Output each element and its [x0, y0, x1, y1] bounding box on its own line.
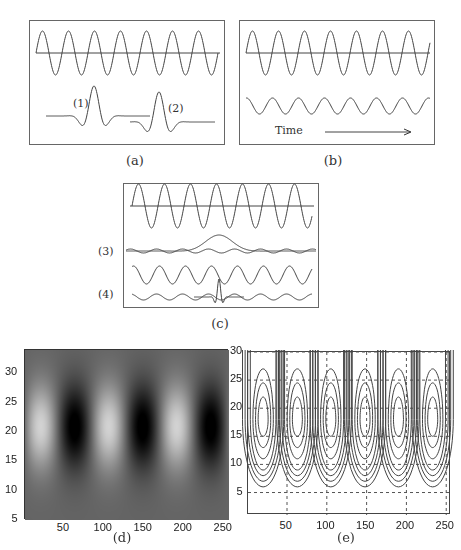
panel-b: Time — [239, 20, 435, 145]
x-tick-label: 200 — [174, 521, 192, 533]
caption-e: (e) — [326, 530, 366, 545]
contour-lines — [248, 352, 451, 515]
contour-line — [250, 350, 276, 470]
contour-line — [428, 397, 438, 436]
panel-c-waves — [124, 184, 320, 309]
contour-line — [360, 397, 370, 436]
contour-line — [326, 397, 336, 436]
caption-b: (b) — [313, 153, 353, 168]
contour-line — [310, 350, 351, 487]
y-tick-label: 5 — [12, 512, 18, 524]
contour-line — [378, 350, 419, 487]
y-tick-label: 30 — [230, 344, 242, 356]
y-tick-label: 15 — [230, 428, 242, 440]
contour-line — [412, 350, 453, 487]
wavelet-2-label: (2) — [168, 102, 184, 115]
y-tick-label: 10 — [5, 483, 17, 495]
y-tick-label: 15 — [5, 453, 17, 465]
contour-line — [420, 350, 446, 470]
contour-line — [344, 350, 385, 487]
contour-line — [277, 350, 318, 487]
panel-a: (1) (2) — [29, 20, 225, 145]
contour-line — [243, 350, 284, 487]
panel-b-waves — [240, 21, 436, 146]
contour-line — [394, 397, 404, 436]
contour-line — [285, 350, 311, 470]
contour-line — [386, 350, 412, 470]
y-tick-label: 5 — [237, 485, 243, 497]
y-tick-label: 25 — [230, 372, 242, 384]
x-tick-label: 250 — [436, 519, 454, 531]
panel-c — [123, 183, 319, 308]
contour-line — [352, 350, 378, 470]
y-tick-label: 30 — [5, 365, 17, 377]
mid-sinusoid — [132, 266, 312, 284]
small-sinusoid — [246, 98, 430, 114]
wavelet-4-label: (4) — [98, 288, 114, 301]
panel-a-waves — [30, 21, 226, 146]
wavelet-1-label: (1) — [73, 97, 89, 110]
x-tick-label: 250 — [214, 521, 232, 533]
y-tick-label: 20 — [5, 424, 17, 436]
wavelet-3-label: (3) — [98, 245, 114, 258]
caption-a: (a) — [115, 153, 155, 168]
caption-d: (d) — [102, 530, 142, 545]
time-label: Time — [275, 124, 303, 137]
contour-plot — [247, 351, 450, 514]
x-tick-label: 50 — [57, 521, 69, 533]
scalogram-canvas — [25, 350, 229, 520]
y-tick-label: 25 — [5, 395, 17, 407]
scalogram-image — [24, 349, 228, 519]
wavelet-1 — [46, 86, 150, 126]
x-tick-label: 200 — [396, 519, 414, 531]
x-tick-label: 50 — [280, 519, 292, 531]
contour-line — [318, 350, 344, 470]
y-tick-label: 20 — [230, 400, 242, 412]
contour-line — [292, 397, 302, 436]
caption-c: (c) — [200, 316, 240, 331]
contour-line — [258, 397, 268, 436]
y-tick-label: 10 — [230, 456, 242, 468]
